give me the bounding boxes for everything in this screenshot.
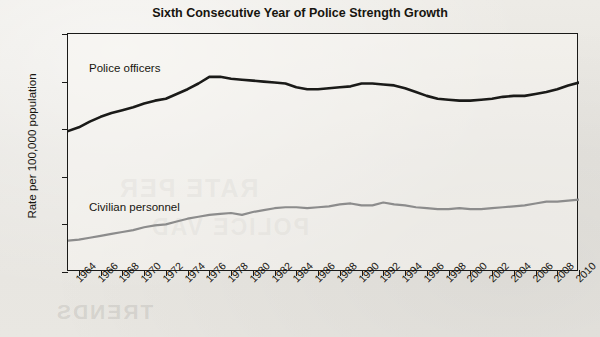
y-axis-title: Rate per 100,000 population	[26, 26, 38, 266]
series-line-police-officers	[68, 77, 579, 131]
y-tick-mark	[62, 272, 68, 273]
civilian-personnel-label: Civilian personnel	[89, 201, 180, 213]
chart-title: Sixth Consecutive Year of Police Strengt…	[0, 6, 600, 20]
police-officers-label: Police officers	[89, 62, 160, 74]
line-chart: Sixth Consecutive Year of Police Strengt…	[0, 0, 600, 337]
